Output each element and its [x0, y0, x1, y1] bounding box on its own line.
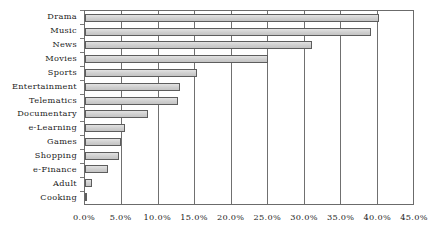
bar [85, 152, 119, 160]
y-axis-label: Telematics [0, 94, 82, 108]
y-axis-label: Cooking [0, 191, 82, 205]
plot-area [84, 10, 414, 205]
bar-row [85, 94, 413, 108]
bar-row [85, 121, 413, 135]
bar [85, 110, 148, 118]
y-axis-label: Documentary [0, 107, 82, 121]
y-axis-label: Drama [0, 10, 82, 24]
x-axis-tick-label: 35.0% [327, 212, 355, 222]
bar-row [85, 163, 413, 177]
y-axis-category-labels: DramaMusicNewsMoviesSportsEntertainmentT… [0, 10, 82, 205]
bar [85, 193, 87, 201]
bar-row [85, 11, 413, 25]
y-axis-label: Shopping [0, 149, 82, 163]
bar-chart: DramaMusicNewsMoviesSportsEntertainmentT… [0, 0, 438, 246]
bar [85, 83, 180, 91]
x-axis-tick-label: 10.0% [144, 212, 172, 222]
x-axis-tick-label: 30.0% [290, 212, 318, 222]
x-axis-tick-label: 0.0% [73, 212, 95, 222]
y-axis-label: Sports [0, 66, 82, 80]
bar-row [85, 176, 413, 190]
bar [85, 138, 121, 146]
bar [85, 124, 125, 132]
x-axis-tick-label: 40.0% [364, 212, 392, 222]
x-axis-tick-label: 20.0% [217, 212, 245, 222]
bar-row [85, 52, 413, 66]
y-axis-label: Entertainment [0, 80, 82, 94]
bar [85, 41, 312, 49]
y-axis-label: Adult [0, 177, 82, 191]
bar-row [85, 135, 413, 149]
x-axis-tick-label: 5.0% [110, 212, 132, 222]
y-axis-label: Music [0, 24, 82, 38]
x-axis-tick-labels: 0.0%5.0%10.0%15.0%20.0%25.0%30.0%35.0%40… [84, 212, 414, 228]
bar-row [85, 107, 413, 121]
x-axis-tick-label: 25.0% [254, 212, 282, 222]
bar-series [85, 11, 413, 204]
x-axis-tick-label: 15.0% [180, 212, 208, 222]
bar [85, 28, 371, 36]
bar-row [85, 66, 413, 80]
y-axis-label: Movies [0, 52, 82, 66]
bar [85, 55, 268, 63]
bar-row [85, 25, 413, 39]
y-axis-label: News [0, 38, 82, 52]
bar-row [85, 149, 413, 163]
bar [85, 69, 197, 77]
bar-row [85, 39, 413, 53]
y-axis-label: e-Learning [0, 121, 82, 135]
bar-row [85, 190, 413, 204]
bar [85, 14, 379, 22]
y-axis-label: Games [0, 135, 82, 149]
y-axis-label: e-Finance [0, 163, 82, 177]
bar [85, 179, 92, 187]
bar-row [85, 80, 413, 94]
bar [85, 165, 108, 173]
x-axis-tick-label: 45.0% [400, 212, 428, 222]
bar [85, 97, 178, 105]
